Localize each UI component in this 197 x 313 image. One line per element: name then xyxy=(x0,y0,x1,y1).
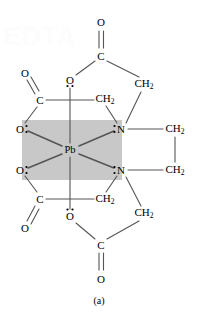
lone-pair-dot-Oboxlower-2 xyxy=(25,172,27,174)
atom-label-CH2-lower-mid: CH2 xyxy=(95,193,114,206)
chemical-structure-figure: EDTA xyxy=(0,0,197,313)
atom-label-CH2-right-upper: CH2 xyxy=(165,123,184,136)
atom-label-CH2-right-lower: CH2 xyxy=(165,164,184,177)
atom-label-Pb: Pb xyxy=(64,145,75,156)
atom-label-O-box-lower: O xyxy=(16,165,24,176)
atom-label-O-upper-left: O xyxy=(21,68,29,79)
lone-pair-dot-Oboxlower-1 xyxy=(25,166,27,168)
bond-network-svg xyxy=(0,0,197,313)
bond-Ctop-CH2upright xyxy=(107,61,139,77)
atom-label-O-bottom: O xyxy=(97,274,105,285)
bond-CH2upright-Nupper xyxy=(126,92,141,123)
lone-pair-dot-Nupper-1 xyxy=(113,125,115,127)
atom-label-C-lower-left: C xyxy=(36,194,43,205)
atom-label-N-upper: N xyxy=(117,124,125,135)
lone-pair-dot-Nlower-2 xyxy=(113,172,115,174)
lone-pair-dot-Oboxupper-1 xyxy=(25,125,27,127)
lone-pair-dot-Oboxupper-2 xyxy=(25,131,27,133)
atom-label-C-bottom: C xyxy=(97,240,104,251)
atom-label-O-box-upper: O xyxy=(16,124,24,135)
atom-label-C-top: C xyxy=(97,51,104,62)
lone-pair-dot-Nupper-2 xyxy=(113,131,115,133)
atom-label-N-lower: N xyxy=(117,165,125,176)
bond-CH2lowerright-Cbottom xyxy=(107,221,139,239)
atom-label-O-top: O xyxy=(97,17,105,28)
bond-Ctop-Oupmid xyxy=(76,61,95,75)
atom-label-O-upper-mid: O xyxy=(66,75,74,86)
bond-Nlower-CH2lowerright xyxy=(126,177,141,206)
lone-pair-dot-Nlower-1 xyxy=(113,166,115,168)
bond-Olowermid-Cbottom xyxy=(76,223,95,239)
atom-label-CH2-upper-mid: CH2 xyxy=(95,93,114,106)
atom-label-O-lower-mid: O xyxy=(66,211,74,222)
atom-label-O-lower-left: O xyxy=(21,223,29,234)
atom-label-CH2-lower-right: CH2 xyxy=(134,207,153,220)
atom-label-CH2-upper-right: CH2 xyxy=(134,78,153,91)
atom-label-C-upper-left: C xyxy=(36,95,43,106)
figure-caption: (a) xyxy=(93,295,104,306)
